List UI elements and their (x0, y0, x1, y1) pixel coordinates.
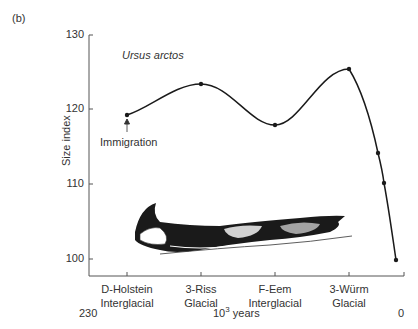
ytick-130: 130 (44, 28, 84, 40)
ytick-120: 120 (44, 102, 84, 114)
immigration-annotation: Immigration (100, 136, 157, 148)
bear-skull-illustration (135, 203, 352, 254)
x-category-wurm: 3-Würm Glacial (304, 282, 394, 310)
x-range-right: 0 (398, 307, 404, 319)
ytick-100: 100 (44, 252, 84, 264)
chart-title: Ursus arctos (122, 49, 184, 61)
y-axis-label: Size index (60, 115, 72, 166)
arrow-up-icon (125, 119, 130, 132)
x-axis-label: 103 years (213, 305, 260, 319)
ytick-110: 110 (44, 177, 84, 189)
x-range-left: 230 (79, 307, 97, 319)
